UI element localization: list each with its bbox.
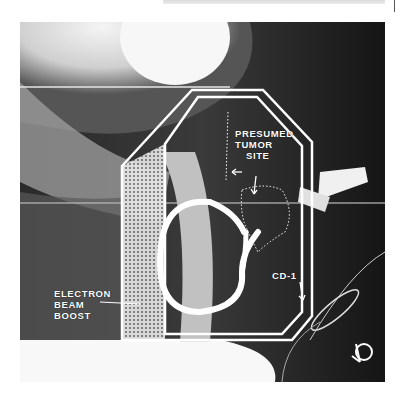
cd1-label: CD-1 [272, 270, 297, 281]
tumor-label-line1: PRESUMED [235, 128, 294, 139]
electron-label-line1: ELECTRON [54, 288, 111, 299]
electron-label-line3: BOOST [54, 310, 91, 321]
electron-label-line2: BEAM [54, 299, 84, 310]
tumor-label-line3: SITE [246, 150, 270, 161]
running-header-text [163, 0, 385, 4]
radiograph-figure: PRESUMED TUMOR SITE ELECTRON BEAM BOOST … [20, 22, 385, 382]
page-edge-rule [394, 0, 395, 12]
tumor-label-line2: TUMOR [235, 139, 273, 150]
radiograph-image [20, 22, 385, 382]
